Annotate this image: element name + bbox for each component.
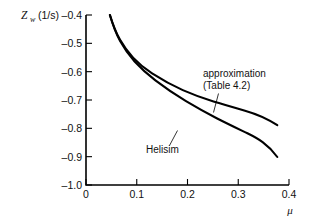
x-tick-label: 0.4: [282, 188, 297, 200]
y-axis-ticks: [86, 15, 92, 185]
axis-lines: [86, 15, 289, 185]
helisim-label: Helisim: [146, 144, 179, 155]
x-axis-title: μ: [286, 204, 293, 216]
x-tick-label: 0.2: [180, 188, 195, 200]
chart-plot-area: –0.4 –0.5 –0.6 –0.7 –0.8 –0.9 –1.0 0 0.1…: [0, 0, 314, 223]
y-tick-label: –0.9: [62, 151, 83, 163]
approximation-label-line1: approximation: [203, 68, 266, 79]
y-tick-label: –1.0: [62, 179, 83, 191]
approximation-label-line2: (Table 4.2): [203, 80, 250, 91]
y-axis-subscript: w: [30, 15, 36, 24]
series-curve-helisim: [110, 15, 277, 157]
x-tick-label: 0.3: [231, 188, 246, 200]
y-tick-label: –0.6: [62, 66, 83, 78]
y-tick-label: –0.5: [62, 37, 83, 49]
y-tick-label: –0.8: [62, 122, 83, 134]
x-tick-label: 0: [83, 188, 89, 200]
x-tick-labels: 0 0.1 0.2 0.3 0.4: [83, 188, 296, 200]
approximation-annotation: approximation (Table 4.2): [203, 68, 266, 113]
y-axis-units: (1/s): [38, 9, 59, 21]
x-axis-ticks: [86, 179, 289, 185]
y-tick-label: –0.4: [62, 9, 83, 21]
helisim-annotation: Helisim: [146, 131, 179, 156]
y-axis-title: Z w (1/s): [21, 9, 59, 24]
x-tick-label: 0.1: [129, 188, 144, 200]
y-axis-symbol: Z: [21, 9, 28, 21]
y-tick-labels: –0.4 –0.5 –0.6 –0.7 –0.8 –0.9 –1.0: [62, 9, 83, 191]
y-tick-label: –0.7: [62, 94, 83, 106]
chart-figure: –0.4 –0.5 –0.6 –0.7 –0.8 –0.9 –1.0 0 0.1…: [0, 0, 314, 223]
